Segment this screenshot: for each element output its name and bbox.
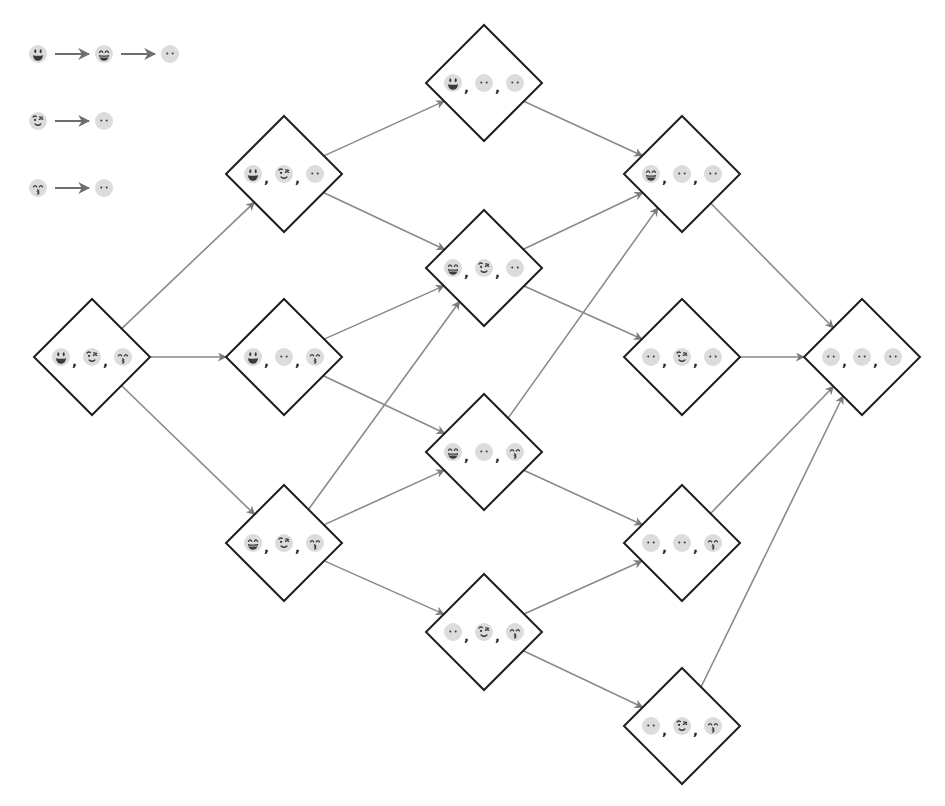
kissing-face-icon [704, 534, 722, 552]
neutral-face-icon [642, 348, 660, 366]
neutral-face-icon [704, 165, 722, 183]
neutral-face-icon [642, 717, 660, 735]
edge-n3-to-n5 [308, 302, 459, 510]
grinning-face-icon [244, 165, 262, 183]
grinning-face-icon [52, 348, 70, 366]
separator-comma: , [295, 354, 300, 369]
state-diagram: ,,,,,,,,,,,,,,,,,,,,,,,,,, [0, 0, 945, 806]
edge-n0-to-n3 [121, 386, 254, 515]
beaming-grin-face-icon [244, 534, 262, 552]
separator-comma: , [495, 449, 500, 464]
kissing-face-icon [506, 443, 524, 461]
grinning-face-icon [244, 348, 262, 366]
edge-n1-to-n5 [323, 193, 444, 250]
separator-comma: , [693, 171, 698, 186]
winking-face-icon [673, 348, 691, 366]
separator-comma: , [264, 540, 269, 555]
separator-comma: , [842, 354, 847, 369]
winking-face-icon [475, 623, 493, 641]
state-node-n5[interactable]: ,, [426, 210, 542, 326]
state-node-n10[interactable]: ,, [624, 485, 740, 601]
neutral-face-icon [444, 623, 462, 641]
winking-face-icon [275, 534, 293, 552]
neutral-face-icon [475, 74, 493, 92]
state-node-n2[interactable]: ,, [226, 299, 342, 415]
neutral-face-icon [306, 165, 324, 183]
neutral-face-icon [506, 74, 524, 92]
neutral-face-icon [673, 534, 691, 552]
kissing-face-icon [29, 179, 47, 197]
state-node-n9[interactable]: ,, [624, 299, 740, 415]
nodes: ,,,,,,,,,,,,,,,,,,,,,,,,,, [34, 25, 920, 784]
edge-n0-to-n1 [122, 202, 255, 328]
edge-n6-to-n10 [524, 470, 643, 524]
neutral-face-icon [642, 534, 660, 552]
separator-comma: , [295, 171, 300, 186]
neutral-face-icon [704, 348, 722, 366]
grinning-face-icon [29, 45, 47, 63]
grinning-face-icon [444, 74, 462, 92]
edge-n1-to-n4 [324, 101, 444, 156]
legend-row [29, 112, 113, 130]
state-node-n0[interactable]: ,, [34, 299, 150, 415]
separator-comma: , [464, 629, 469, 644]
beaming-grin-face-icon [444, 259, 462, 277]
neutral-face-icon [95, 179, 113, 197]
edge-n6-to-n8 [508, 208, 658, 418]
separator-comma: , [693, 354, 698, 369]
separator-comma: , [662, 171, 667, 186]
edge-n8-to-n12 [711, 203, 833, 328]
edge-n3-to-n7 [324, 561, 444, 614]
winking-face-icon [475, 259, 493, 277]
state-node-n4[interactable]: ,, [426, 25, 542, 141]
kissing-face-icon [704, 717, 722, 735]
kissing-face-icon [114, 348, 132, 366]
neutral-face-icon [275, 348, 293, 366]
beaming-grin-face-icon [444, 443, 462, 461]
separator-comma: , [464, 265, 469, 280]
neutral-face-icon [95, 112, 113, 130]
neutral-face-icon [853, 348, 871, 366]
neutral-face-icon [506, 259, 524, 277]
separator-comma: , [693, 540, 698, 555]
kissing-face-icon [306, 348, 324, 366]
beaming-grin-face-icon [95, 45, 113, 63]
separator-comma: , [873, 354, 878, 369]
kissing-face-icon [306, 534, 324, 552]
edge-n3-to-n6 [324, 470, 444, 525]
state-node-n6[interactable]: ,, [426, 394, 542, 510]
separator-comma: , [264, 171, 269, 186]
edge-n7-to-n10 [524, 561, 642, 614]
neutral-face-icon [822, 348, 840, 366]
separator-comma: , [464, 80, 469, 95]
neutral-face-icon [884, 348, 902, 366]
edge-n5-to-n8 [523, 193, 642, 250]
separator-comma: , [495, 80, 500, 95]
edge-n7-to-n11 [523, 651, 642, 708]
state-node-n7[interactable]: ,, [426, 574, 542, 690]
beaming-grin-face-icon [642, 165, 660, 183]
neutral-face-icon [475, 443, 493, 461]
legend-row [29, 45, 179, 63]
separator-comma: , [662, 540, 667, 555]
winking-face-icon [275, 165, 293, 183]
state-node-n11[interactable]: ,, [624, 668, 740, 784]
edge-n2-to-n5 [324, 286, 444, 339]
separator-comma: , [264, 354, 269, 369]
winking-face-icon [673, 717, 691, 735]
separator-comma: , [103, 354, 108, 369]
separator-comma: , [662, 354, 667, 369]
edge-n4-to-n8 [524, 101, 643, 155]
state-node-n1[interactable]: ,, [226, 116, 342, 232]
edge-n10-to-n12 [711, 386, 834, 513]
separator-comma: , [72, 354, 77, 369]
legend [29, 45, 179, 197]
state-node-n3[interactable]: ,, [226, 485, 342, 601]
separator-comma: , [464, 449, 469, 464]
neutral-face-icon [673, 165, 691, 183]
separator-comma: , [495, 265, 500, 280]
winking-face-icon [83, 348, 101, 366]
legend-row [29, 179, 113, 197]
separator-comma: , [295, 540, 300, 555]
neutral-face-icon [161, 45, 179, 63]
